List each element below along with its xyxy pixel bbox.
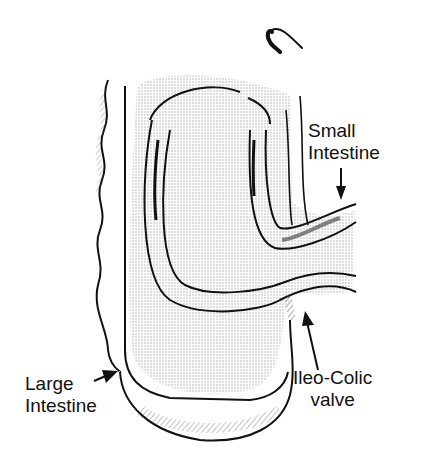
label-ileo-colic-valve: Ileo-Colic valve — [293, 367, 372, 411]
small-intestine-arrow — [336, 168, 346, 200]
label-small-intestine-line1: Small — [308, 120, 380, 142]
label-large-intestine-line1: Large — [25, 373, 97, 395]
label-large-intestine: Large Intestine — [25, 373, 97, 417]
ink-mark-icon — [268, 29, 302, 52]
label-valve-line1: Ileo-Colic — [293, 367, 372, 389]
label-small-intestine: Small Intestine — [308, 120, 380, 164]
label-valve-line2: valve — [293, 389, 372, 411]
label-small-intestine-line2: Intestine — [308, 142, 380, 164]
large-intestine-arrow — [94, 370, 118, 383]
label-large-intestine-line2: Intestine — [25, 395, 97, 417]
valve-arrow — [302, 311, 318, 370]
